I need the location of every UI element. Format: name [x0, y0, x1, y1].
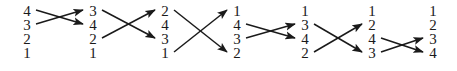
value-c6-r4: 3 — [364, 46, 380, 61]
value-c5-r4: 2 — [297, 46, 313, 61]
value-c2-r4: 1 — [85, 46, 101, 61]
stage-6-column: 1243 — [364, 0, 380, 71]
value-c3-r4: 1 — [157, 46, 173, 61]
permutation-diagram: 4321342124311432134212431234 — [0, 0, 457, 71]
stage-1-column: 4321 — [19, 0, 35, 71]
value-c1-r4: 1 — [19, 46, 35, 61]
stage-7-column: 1234 — [425, 0, 441, 71]
stage-2-column: 3421 — [85, 0, 101, 71]
stage-4-column: 1432 — [229, 0, 245, 71]
stage-3-column: 2431 — [157, 0, 173, 71]
stage-5-column: 1342 — [297, 0, 313, 71]
value-c4-r4: 2 — [229, 46, 245, 61]
value-c7-r4: 4 — [425, 46, 441, 61]
